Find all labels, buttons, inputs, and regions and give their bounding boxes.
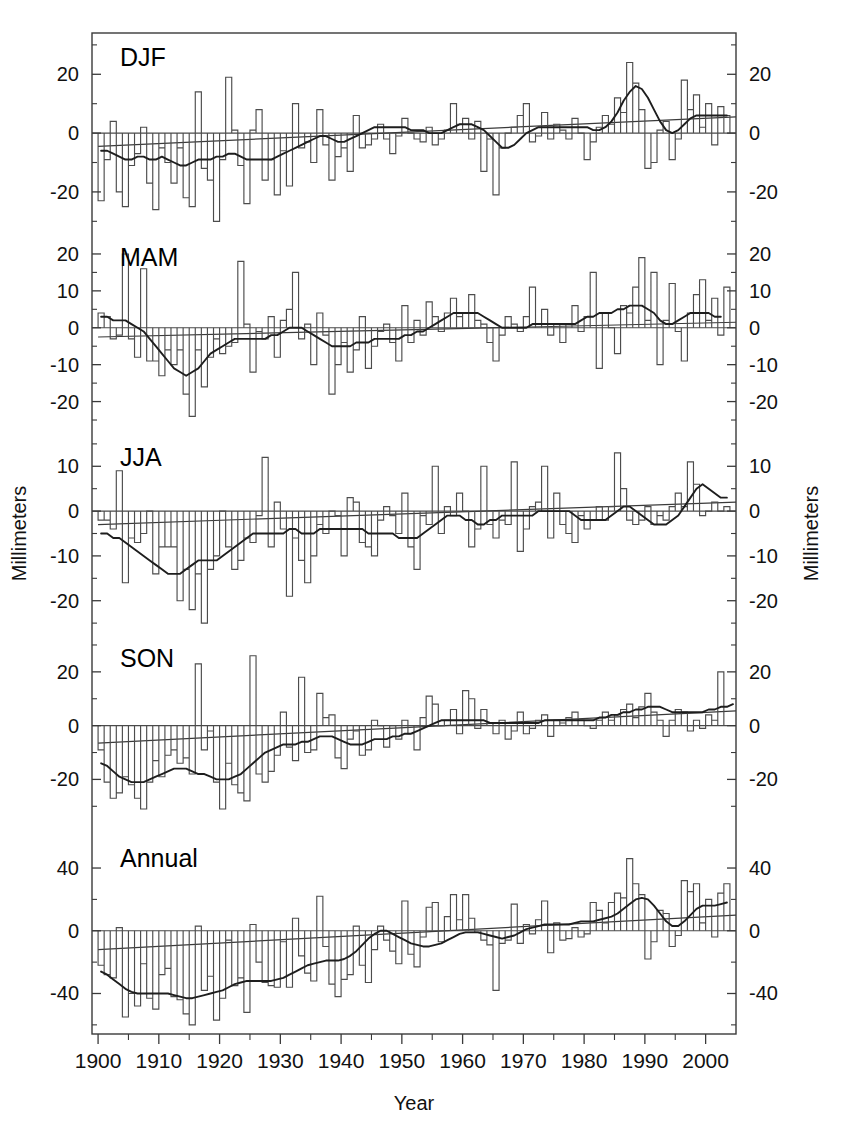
y-tick-label-left: 20	[57, 661, 79, 683]
y-tick-label-left: -20	[50, 391, 79, 413]
anomaly-step-series	[98, 656, 724, 809]
x-tick-label: 1920	[196, 1049, 243, 1072]
x-axis: 1900191019201930194019501960197019801990…	[75, 1034, 729, 1072]
panel-annual: -40-40004040Annual	[50, 844, 778, 1025]
y-axis-title-left: Millimeters	[8, 486, 30, 582]
y-tick-label-left: -10	[50, 354, 79, 376]
y-tick-label-right: -20	[749, 590, 778, 612]
smoothed-curve	[101, 306, 721, 376]
x-tick-label: 1960	[439, 1049, 486, 1072]
y-tick-label-left: 0	[68, 317, 79, 339]
y-tick-label-right: 0	[749, 920, 760, 942]
trend-line	[98, 711, 736, 743]
x-tick-label: 1980	[561, 1049, 608, 1072]
y-tick-label-right: -20	[749, 768, 778, 790]
y-axis-title-right: Millimeters	[800, 486, 822, 582]
y-tick-label-left: 0	[68, 715, 79, 737]
seasonal-precipitation-anomaly-figure: -20-20002020DJF-20-20-10-100010102020MAM…	[0, 0, 842, 1127]
y-tick-label-right: 10	[749, 455, 771, 477]
y-tick-label-right: -20	[749, 181, 778, 203]
trend-line	[98, 117, 736, 146]
y-tick-label-right: -20	[749, 391, 778, 413]
panel-jja: -20-20-10-10001010JJA	[50, 443, 778, 623]
y-tick-label-left: 20	[57, 243, 79, 265]
y-tick-label-right: -10	[749, 354, 778, 376]
y-tick-label-left: 0	[68, 500, 79, 522]
anomaly-step-series	[98, 859, 730, 1025]
y-tick-label-left: 20	[57, 63, 79, 85]
y-tick-label-left: 10	[57, 280, 79, 302]
x-tick-label: 1910	[135, 1049, 182, 1072]
y-tick-label-right: 20	[749, 661, 771, 683]
y-tick-label-left: 0	[68, 122, 79, 144]
panel-title: SON	[120, 644, 174, 672]
y-tick-label-left: -20	[50, 181, 79, 203]
y-tick-label-right: -10	[749, 545, 778, 567]
y-tick-label-left: -10	[50, 545, 79, 567]
x-axis-title: Year	[394, 1092, 435, 1114]
panel-title: JJA	[120, 443, 162, 471]
x-tick-label: 1990	[622, 1049, 669, 1072]
y-tick-label-left: 10	[57, 455, 79, 477]
panel-title: DJF	[120, 43, 166, 71]
x-tick-label: 1900	[75, 1049, 122, 1072]
y-tick-label-right: 10	[749, 280, 771, 302]
y-tick-label-right: 40	[749, 857, 771, 879]
y-tick-label-left: 40	[57, 857, 79, 879]
y-tick-label-right: 0	[749, 500, 760, 522]
y-tick-label-right: 20	[749, 243, 771, 265]
y-tick-label-left: -20	[50, 590, 79, 612]
y-tick-label-right: 0	[749, 715, 760, 737]
y-tick-label-left: -20	[50, 768, 79, 790]
trend-line	[98, 322, 736, 337]
y-tick-label-right: 0	[749, 122, 760, 144]
panel-djf: -20-20002020DJF	[50, 43, 778, 221]
chart-canvas: -20-20002020DJF-20-20-10-100010102020MAM…	[0, 0, 842, 1127]
x-tick-label: 1970	[500, 1049, 547, 1072]
y-tick-label-right: 20	[749, 63, 771, 85]
y-tick-label-right: 0	[749, 317, 760, 339]
x-tick-label: 1930	[257, 1049, 304, 1072]
y-tick-label-left: -40	[50, 982, 79, 1004]
panel-son: -20-20002020SON	[50, 644, 778, 809]
panel-title: Annual	[120, 844, 198, 872]
y-tick-label-left: 0	[68, 920, 79, 942]
x-tick-label: 2000	[682, 1049, 729, 1072]
panel-mam: -20-20-10-100010102020MAM	[50, 243, 778, 420]
panel-title: MAM	[120, 243, 178, 271]
x-tick-label: 1950	[378, 1049, 425, 1072]
y-tick-label-right: -40	[749, 982, 778, 1004]
x-tick-label: 1940	[318, 1049, 365, 1072]
